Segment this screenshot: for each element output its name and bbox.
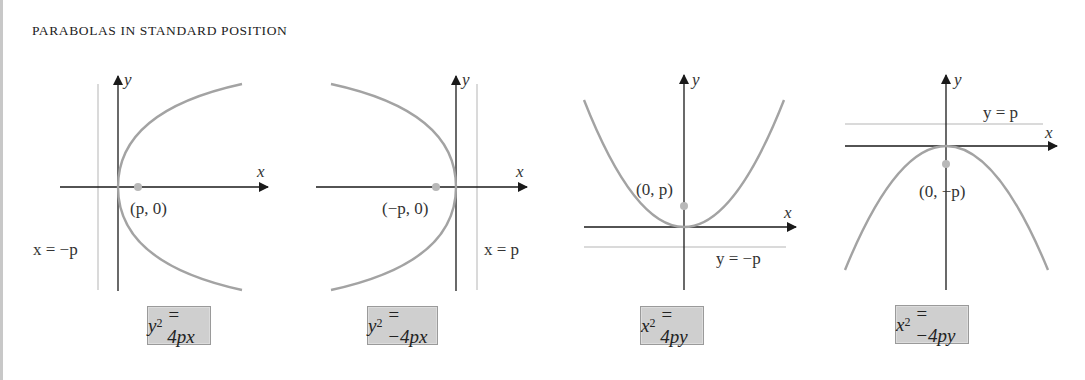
directrix-label: y = −p <box>716 250 761 267</box>
directrix-label: x = p <box>484 241 519 258</box>
equation-box: y2 = 4px <box>147 306 211 345</box>
focus-label: (0, −p) <box>919 183 965 200</box>
equation-rhs: = −4py <box>915 303 968 347</box>
equation-box: x2 = −4py <box>895 305 969 344</box>
equation-exponent: 2 <box>649 316 655 331</box>
focus-label: (0, p) <box>636 181 673 198</box>
focus-point <box>432 183 440 191</box>
equation-box: y2 = −4px <box>367 306 438 345</box>
y-axis-label: y <box>462 71 470 88</box>
equation-rhs: = 4py <box>660 304 703 348</box>
equation-lhs: y <box>368 315 376 337</box>
focus-label: (−p, 0) <box>382 200 428 217</box>
equation-rhs: = 4px <box>167 304 210 348</box>
x-axis-label: x <box>784 204 792 221</box>
equation-exponent: 2 <box>376 316 382 331</box>
equation-lhs: x <box>896 314 904 336</box>
equation-lhs: x <box>641 315 649 337</box>
x-axis-label: x <box>1045 124 1053 141</box>
y-axis-label: y <box>692 71 700 88</box>
equation-rhs: = −4px <box>387 304 437 348</box>
x-axis-label: x <box>516 163 524 180</box>
equation-box: x2 = 4py <box>640 306 704 345</box>
diagram-right-opening <box>60 76 268 291</box>
y-axis-label: y <box>124 71 132 88</box>
equation-lhs: y <box>148 315 156 337</box>
diagram-up-opening <box>584 75 796 290</box>
focus-point <box>942 160 950 168</box>
focus-label: (p, 0) <box>130 200 167 217</box>
y-axis-label: y <box>954 71 962 88</box>
equation-exponent: 2 <box>156 316 162 331</box>
x-axis-label: x <box>257 163 265 180</box>
focus-point <box>134 183 142 191</box>
equation-exponent: 2 <box>904 315 910 330</box>
focus-point <box>680 202 688 210</box>
directrix-label: x = −p <box>33 241 78 258</box>
directrix-label: y = p <box>983 104 1018 121</box>
